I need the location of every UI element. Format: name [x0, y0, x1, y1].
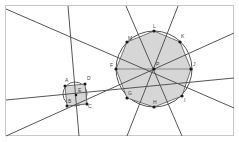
label-I: I: [184, 97, 185, 103]
label-F: F: [110, 62, 113, 68]
label-G: G: [128, 90, 132, 96]
label-M: M: [128, 35, 132, 41]
label-D: D: [87, 75, 91, 81]
label-C: C: [88, 103, 92, 109]
label-H: H: [153, 99, 157, 105]
label-L: L: [153, 23, 156, 29]
geometry-diagram: L K J I H G F M P A D C B E: [0, 0, 239, 142]
